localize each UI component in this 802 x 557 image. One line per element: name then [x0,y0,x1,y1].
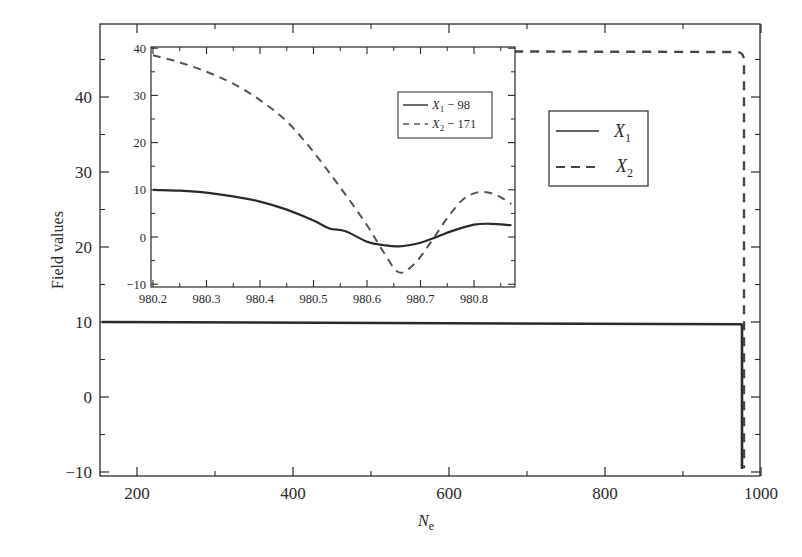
x-tick-label: 400 [280,484,306,503]
inset-plot: 980.2980.3980.4980.5980.6980.7980.8−1001… [126,42,515,306]
x-tick-label: 800 [592,484,618,503]
inset-x-tick-label: 980.8 [460,292,488,306]
inset-y-tick-label: 20 [134,136,147,150]
x-axis-title: Ne [417,512,434,533]
x-tick-label: 600 [436,484,462,503]
inset-legend-x2-label: X2 − 171 [431,117,476,133]
main-series-x1-line [102,322,742,469]
inset-y-tick-label: 0 [140,231,146,245]
inset-y-tick-label: 30 [134,89,147,103]
inset-y-tick-label: −10 [126,278,146,292]
y-tick-label: 20 [75,238,92,257]
inset-x-tick-label: 980.2 [139,292,167,306]
y-tick-label: 30 [75,163,92,182]
inset-legend-x1-label: X1 − 98 [431,98,470,114]
x-tick-label: 200 [124,484,150,503]
y-tick-label: 40 [75,88,92,107]
inset-y-tick-label: 40 [134,42,147,56]
y-tick-label: 10 [75,313,92,332]
y-tick-label: 0 [84,388,93,407]
chart: 2004006008001000−10010203040 Field value… [0,0,802,557]
x-tick-label: 1000 [744,484,778,503]
inset-y-tick-label: 10 [134,183,147,197]
y-tick-label: −10 [65,463,92,482]
inset-x-tick-label: 980.6 [353,292,381,306]
main-legend: X1 X2 [549,111,648,186]
inset-plot-frame [151,47,515,287]
main-legend-box [549,111,648,186]
inset-x-tick-label: 980.5 [299,292,327,306]
y-axis-title: Field values [49,211,66,289]
inset-legend: X1 − 98 X2 − 171 [398,92,492,138]
inset-x-tick-label: 980.3 [192,292,220,306]
inset-x-tick-label: 980.4 [246,292,275,306]
inset-x-tick-label: 980.7 [406,292,434,306]
